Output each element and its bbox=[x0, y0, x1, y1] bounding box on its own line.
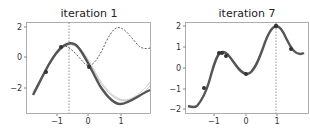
y-tick: 2 bbox=[17, 23, 22, 32]
observation-point bbox=[224, 54, 228, 58]
x-tick: 1 bbox=[118, 117, 123, 126]
plot-area: −1 0 1 2 1 0 −1 −2 bbox=[155, 0, 310, 132]
y-tick: 0 bbox=[17, 53, 22, 62]
x-tick: 1 bbox=[274, 117, 279, 126]
observation-point bbox=[220, 51, 224, 55]
observation-point bbox=[202, 86, 206, 90]
x-tick: 0 bbox=[243, 117, 248, 126]
y-tick: −2 bbox=[169, 105, 181, 114]
observation-point bbox=[244, 72, 248, 76]
y-tick: −2 bbox=[10, 84, 22, 93]
x-tick: −1 bbox=[208, 117, 220, 126]
acquisition-function-line bbox=[62, 28, 150, 67]
observation-point bbox=[44, 70, 48, 74]
y-tick: 2 bbox=[176, 22, 181, 31]
posterior-mean-line bbox=[188, 26, 304, 107]
observation-point bbox=[87, 65, 91, 69]
posterior-mean-line bbox=[33, 43, 150, 104]
y-tick: 0 bbox=[176, 64, 181, 73]
chart-iteration-7: iteration 7 −1 0 1 2 1 0 −1 −2 bbox=[155, 0, 310, 132]
plot-area: −1 0 1 2 0 −2 bbox=[0, 0, 155, 132]
y-tick: −1 bbox=[169, 85, 181, 94]
observation-point bbox=[274, 24, 278, 28]
chart-iteration-1: iteration 1 −1 0 1 2 0 −2 bbox=[0, 0, 155, 132]
x-tick: −1 bbox=[51, 117, 63, 126]
y-tick: 1 bbox=[176, 43, 181, 52]
observation-point bbox=[59, 45, 63, 49]
observation-point bbox=[289, 47, 293, 51]
x-tick: 0 bbox=[85, 117, 90, 126]
